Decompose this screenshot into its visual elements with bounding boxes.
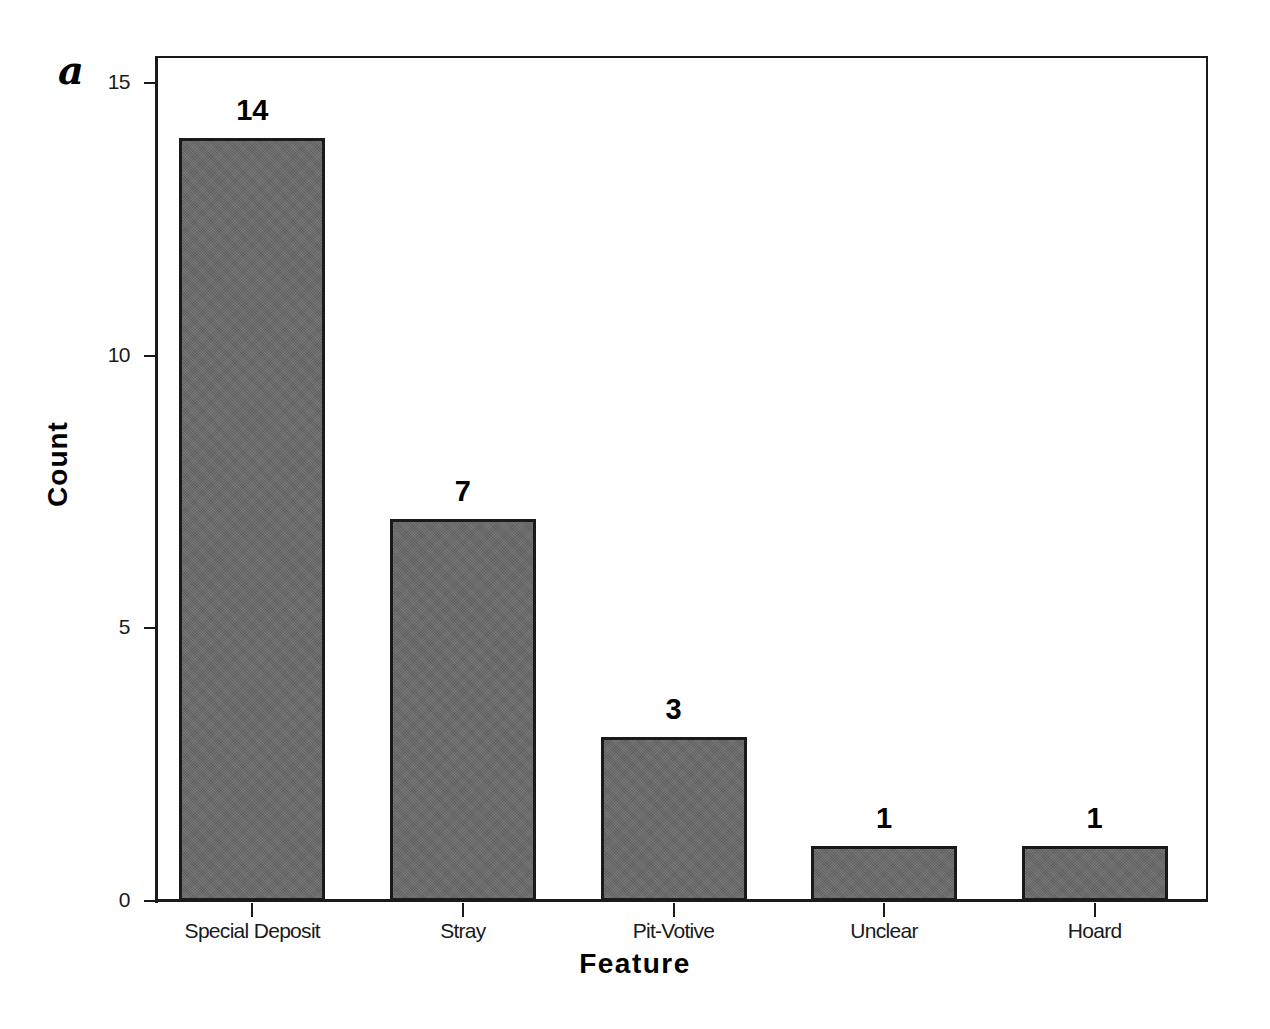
bar-value-label: 7 (455, 475, 471, 508)
bar-pit-votive[interactable] (601, 737, 747, 901)
y-axis-tick-mark (144, 900, 157, 902)
x-axis-category-label: Unclear (850, 919, 917, 943)
bar-value-label: 1 (876, 802, 892, 835)
x-axis-title: Feature (0, 948, 1270, 980)
bar-value-label: 14 (236, 94, 268, 127)
x-axis-tick-mark (462, 903, 464, 917)
y-axis-title: Count (42, 384, 74, 544)
y-axis-tick-label: 15 (70, 70, 130, 94)
y-axis-tick-mark (144, 82, 157, 84)
bar-value-label: 1 (1087, 802, 1103, 835)
y-axis-line (155, 56, 158, 903)
bar-hoard[interactable] (1022, 846, 1168, 901)
x-axis-category-label: Stray (440, 919, 486, 943)
y-axis-tick-mark (144, 355, 157, 357)
x-axis-category-label: Pit-Votive (633, 919, 715, 943)
x-axis-tick-mark (1094, 903, 1096, 917)
bar-special-deposit[interactable] (179, 138, 325, 901)
y-axis-tick-mark (144, 627, 157, 629)
x-axis-tick-mark (673, 903, 675, 917)
x-axis-tick-mark (251, 903, 253, 917)
x-axis-category-label: Special Deposit (185, 919, 320, 943)
x-axis-tick-mark (883, 903, 885, 917)
bar-unclear[interactable] (811, 846, 957, 901)
bar-stray[interactable] (390, 519, 536, 901)
bar-value-label: 3 (665, 693, 681, 726)
y-axis-tick-label: 10 (70, 343, 130, 367)
bar-chart-figure: a 051015 Special DepositStrayPit-VotiveU… (0, 0, 1270, 1029)
x-axis-category-label: Hoard (1068, 919, 1122, 943)
y-axis-tick-label: 0 (70, 888, 130, 912)
y-axis-tick-label: 5 (70, 615, 130, 639)
